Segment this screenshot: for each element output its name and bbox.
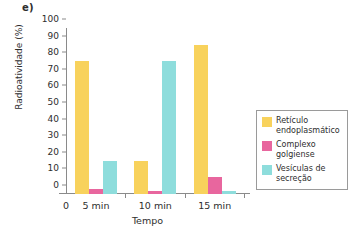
y-axis-tick-label: 90: [48, 31, 59, 40]
bar: [134, 161, 148, 194]
y-axis-tick-label: 60: [48, 81, 59, 90]
y-axis-tick-label: 30: [48, 131, 59, 140]
bar: [103, 161, 117, 194]
y-axis-tick-label: 0: [53, 181, 59, 190]
legend-item: Vesículas de secreção: [262, 164, 343, 184]
y-axis-tick-label: 100: [42, 15, 59, 24]
bar: [162, 61, 176, 194]
y-axis-line: [66, 28, 67, 194]
x-axis-tick-mark: [125, 194, 126, 198]
x-axis-origin-label: 0: [63, 200, 69, 211]
y-axis-tick-label: 50: [48, 98, 59, 107]
y-axis-tick-label: 20: [48, 147, 59, 156]
y-axis-tick-mark: [62, 185, 66, 186]
legend-label: Vesículas de secreção: [276, 164, 343, 184]
y-axis-tick: 30: [48, 131, 66, 140]
y-axis-tick-mark: [62, 35, 66, 36]
y-axis-tick-label: 80: [48, 48, 59, 57]
y-axis-tick-label: 10: [48, 164, 59, 173]
y-axis-tick-mark: [62, 151, 66, 152]
y-axis-title: Radioatividade (%): [14, 2, 24, 132]
y-axis-tick-mark: [62, 102, 66, 103]
y-axis-tick-label: 70: [48, 64, 59, 73]
y-axis-tick: 100: [42, 15, 66, 24]
legend-item: Retículo endoplasmático: [262, 116, 343, 136]
bar: [222, 191, 236, 194]
y-axis-tick-mark: [62, 118, 66, 119]
y-axis-tick-mark: [62, 19, 66, 20]
y-axis-tick: 0: [53, 181, 66, 190]
bar: [148, 191, 162, 194]
y-axis-tick: 40: [48, 114, 66, 123]
legend-item: Complexo golgiense: [262, 140, 343, 160]
bar: [89, 189, 103, 194]
chart-figure: e) Radioatividade (%) 010203040506070809…: [0, 0, 352, 235]
bar-group: [134, 28, 176, 194]
y-axis-tick-mark: [62, 135, 66, 136]
x-axis-tick-label: 5 min: [83, 200, 110, 211]
bar-group: [75, 28, 117, 194]
bar: [75, 61, 89, 194]
x-axis-tick-mark: [185, 194, 186, 198]
y-axis-tick-mark: [62, 168, 66, 169]
plot-area: 0102030405060708090100 5 min10 min15 min…: [66, 28, 244, 194]
x-axis-tick-mark: [244, 194, 245, 198]
y-axis-tick-mark: [62, 85, 66, 86]
x-axis-tick-label: 15 min: [198, 200, 231, 211]
y-axis-tick: 60: [48, 81, 66, 90]
y-axis-tick: 20: [48, 147, 66, 156]
y-axis-tick-label: 40: [48, 114, 59, 123]
legend-label: Complexo golgiense: [276, 140, 343, 160]
x-axis-title: Tempo: [40, 215, 255, 226]
y-axis-tick-mark: [62, 68, 66, 69]
y-axis-tick: 90: [48, 31, 66, 40]
legend-label: Retículo endoplasmático: [276, 116, 343, 136]
legend-swatch: [262, 165, 272, 175]
x-axis-tick-label: 10 min: [139, 200, 172, 211]
bar: [208, 177, 222, 194]
y-axis-tick: 50: [48, 98, 66, 107]
bar-group: [194, 28, 236, 194]
chart-legend: Retículo endoplasmáticoComplexo golgiens…: [256, 110, 348, 190]
y-axis-tick: 80: [48, 48, 66, 57]
legend-swatch: [262, 141, 272, 151]
legend-swatch: [262, 117, 272, 127]
y-axis-tick: 70: [48, 64, 66, 73]
y-axis-tick-mark: [62, 52, 66, 53]
y-axis-tick: 10: [48, 164, 66, 173]
bar: [194, 45, 208, 194]
